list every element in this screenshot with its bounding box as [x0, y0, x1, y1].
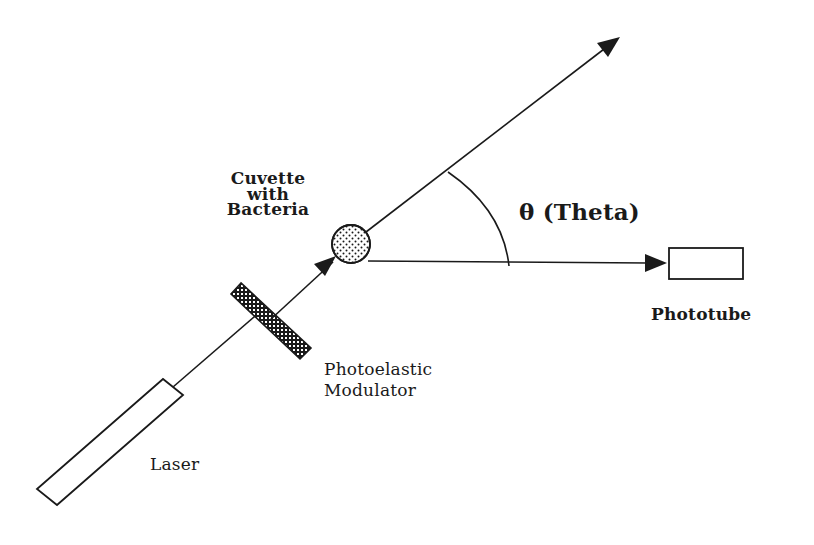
arrowhead-transmitted [597, 37, 620, 57]
beam-laser-to-modulator [173, 310, 262, 387]
cuvette-label-line3: Bacteria [226, 199, 310, 219]
theta-angle-arc [448, 172, 509, 266]
diagram-drawing [0, 0, 814, 545]
laser-body [37, 379, 183, 505]
diagram-canvas: Cuvette with Bacteria θ (Theta) Phototub… [0, 0, 814, 545]
phototube-shape [669, 248, 743, 279]
theta-label: θ (Theta) [519, 199, 640, 225]
laser-label: Laser [150, 454, 199, 474]
photoelastic-modulator-shape [231, 283, 311, 359]
modulator-label-line1: Photoelastic [324, 359, 432, 379]
arrowhead-into-cuvette [314, 256, 336, 276]
modulator-label-line2: Modulator [324, 380, 416, 400]
arrowhead-to-phototube [645, 254, 667, 272]
phototube-label: Phototube [651, 304, 751, 324]
